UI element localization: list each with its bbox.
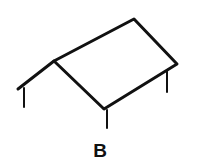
roof-plane (54, 19, 177, 109)
left-eave-line (18, 61, 54, 89)
figure-label: B (0, 141, 200, 161)
roof-drawing (0, 0, 200, 161)
roof-diagram: B (0, 0, 200, 161)
